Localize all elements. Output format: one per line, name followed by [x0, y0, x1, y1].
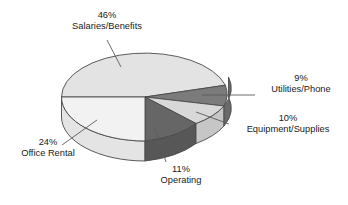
- pie-label-salaries-benefits-name: Salaries/Benefits: [46, 21, 168, 32]
- pie-label-salaries-benefits: 46% Salaries/Benefits: [46, 10, 168, 32]
- pie-label-equipment-supplies-name: Equipment/Supplies: [228, 124, 348, 135]
- pie-label-utilities-phone: 9% Utilities/Phone: [256, 73, 346, 95]
- pie-label-utilities-phone-percent: 9%: [256, 73, 346, 84]
- pie-label-office-rental: 24% Office Rental: [2, 137, 94, 159]
- pie-chart: 46% Salaries/Benefits 9% Utilities/Phone…: [0, 0, 348, 205]
- pie-label-salaries-benefits-percent: 46%: [46, 10, 168, 21]
- pie-label-equipment-supplies: 10% Equipment/Supplies: [228, 113, 348, 135]
- pie-label-office-rental-percent: 24%: [2, 137, 94, 148]
- pie-label-operating-name: Operating: [142, 175, 220, 186]
- pie-label-utilities-phone-name: Utilities/Phone: [256, 84, 346, 95]
- pie-label-operating: 11% Operating: [142, 164, 220, 186]
- pie-label-equipment-supplies-percent: 10%: [228, 113, 348, 124]
- pie-label-office-rental-name: Office Rental: [2, 148, 94, 159]
- pie-label-operating-percent: 11%: [142, 164, 220, 175]
